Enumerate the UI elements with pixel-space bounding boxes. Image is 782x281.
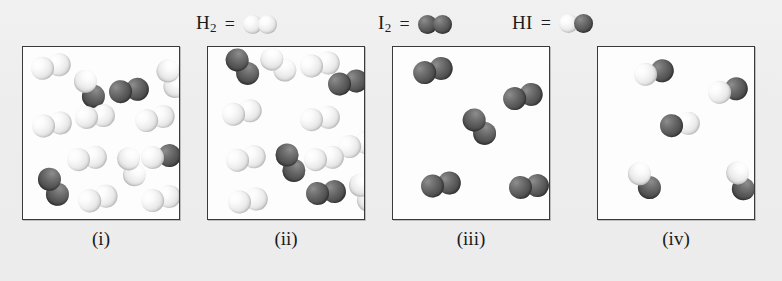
- molecule-hi: [706, 75, 750, 107]
- molecule-legend: H2 = I2 = HI =: [0, 10, 782, 42]
- molecule-h2: [29, 51, 73, 83]
- molecule-i2: [508, 173, 550, 201]
- panel-caption-ii: (ii): [207, 228, 365, 250]
- molecule-hi: [722, 158, 755, 204]
- molecule-i2: [33, 164, 73, 211]
- legend-molecule-hi: [559, 13, 595, 33]
- legend-sub-h2: 2: [210, 20, 217, 35]
- molecule-h2: [299, 104, 342, 133]
- molecule-hi: [659, 110, 702, 139]
- molecule-i2: [108, 76, 151, 105]
- panel-caption-i: (i): [22, 228, 180, 250]
- molecule-i2: [271, 140, 309, 186]
- molecule-h2: [30, 110, 74, 141]
- legend-entry-i2: I2 =: [378, 12, 454, 36]
- molecule-h2: [303, 144, 346, 173]
- hydrogen-atom: [345, 170, 365, 201]
- panel-group: [0, 46, 782, 222]
- molecule-h2: [152, 56, 180, 102]
- molecule-h2: [220, 97, 264, 129]
- panel-caption-iv: (iv): [597, 228, 755, 250]
- molecule-i2: [411, 55, 456, 88]
- molecule-h2: [133, 103, 178, 136]
- molecule-h2: [344, 170, 365, 217]
- molecule-h2: [66, 144, 109, 173]
- molecule-i2: [501, 81, 546, 114]
- legend-molecule-i2: [418, 14, 454, 34]
- molecule-h2: [226, 186, 270, 217]
- legend-entry-h2: H2 =: [196, 12, 279, 36]
- molecule-h2: [255, 46, 301, 87]
- molecule-h2: [224, 143, 268, 175]
- panel-captions: (i) (ii) (iii) (iv): [0, 228, 782, 258]
- legend-label-hi: HI: [512, 12, 533, 34]
- molecule-i2: [419, 170, 463, 201]
- molecule-hi: [632, 57, 676, 89]
- molecule-hi: [623, 158, 666, 204]
- reaction-panel-iii: [392, 46, 550, 220]
- molecule-h2: [75, 182, 120, 216]
- legend-sub-i2: 2: [385, 20, 392, 35]
- molecule-i2: [220, 46, 264, 90]
- molecule-h2: [74, 103, 116, 131]
- legend-entry-hi: HI =: [512, 12, 595, 34]
- reaction-panel-ii: [207, 46, 365, 220]
- legend-equals-h2: =: [225, 14, 235, 35]
- molecule-hi: [140, 143, 180, 171]
- reaction-panel-iv: [597, 46, 755, 220]
- hydrogen-atom: [258, 15, 277, 34]
- molecule-h2: [139, 183, 180, 216]
- panel-caption-iii: (iii): [392, 228, 550, 250]
- molecule-i2: [457, 104, 501, 150]
- iodine-atom: [574, 14, 593, 33]
- legend-equals-hi: =: [541, 13, 551, 34]
- iodine-atom: [433, 15, 452, 34]
- molecule-i2: [305, 179, 347, 207]
- legend-label-h2: H2: [196, 12, 217, 36]
- legend-equals-i2: =: [399, 14, 409, 35]
- legend-molecule-h2: [243, 14, 279, 34]
- legend-label-i2: I2: [378, 12, 391, 36]
- reaction-panel-i: [22, 46, 180, 220]
